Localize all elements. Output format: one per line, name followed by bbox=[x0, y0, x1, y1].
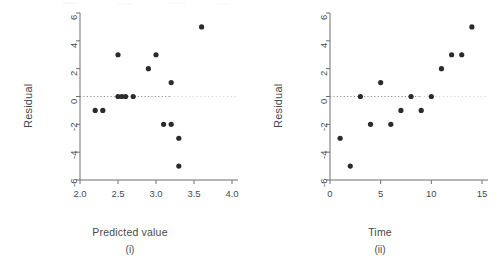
x-tick-label: 2.0 bbox=[60, 188, 100, 199]
data-point bbox=[169, 122, 174, 127]
data-point bbox=[388, 122, 393, 127]
data-point bbox=[338, 136, 343, 141]
data-point bbox=[419, 108, 424, 113]
y-tick-label: 0 bbox=[318, 98, 329, 103]
residual-plots-figure: Residual Predicted value (i) 6420-2-4-62… bbox=[0, 0, 500, 264]
data-point bbox=[429, 94, 434, 99]
panel-predicted-value: Residual Predicted value (i) 6420-2-4-62… bbox=[0, 0, 250, 264]
y-tick-label: 2 bbox=[68, 70, 79, 75]
x-axis-title-i: Predicted value bbox=[60, 226, 200, 238]
panel-time: Residual Time (ii) 6420-2-4-6051015 bbox=[250, 0, 500, 264]
y-tick-label: 4 bbox=[68, 43, 79, 48]
x-tick-label: 2.5 bbox=[98, 188, 138, 199]
data-point bbox=[368, 122, 373, 127]
data-point bbox=[146, 66, 151, 71]
y-tick-label: 2 bbox=[318, 70, 329, 75]
x-tick-label: 3.0 bbox=[136, 188, 176, 199]
data-point bbox=[176, 136, 181, 141]
y-tick-label: -6 bbox=[318, 179, 329, 187]
x-tick-label: 4.0 bbox=[212, 188, 252, 199]
data-point bbox=[449, 52, 454, 57]
y-tick-label: -4 bbox=[318, 151, 329, 159]
x-tick-label: 15 bbox=[462, 188, 500, 199]
data-point bbox=[199, 24, 204, 29]
data-point bbox=[439, 66, 444, 71]
data-point bbox=[169, 80, 174, 85]
data-point bbox=[161, 122, 166, 127]
x-tick-label: 3.5 bbox=[174, 188, 214, 199]
x-axis-title-ii: Time bbox=[310, 226, 450, 238]
data-point bbox=[408, 94, 413, 99]
data-point bbox=[115, 52, 120, 57]
y-tick-label: -2 bbox=[68, 123, 79, 131]
y-tick-label: -6 bbox=[68, 179, 79, 187]
x-tick-label: 5 bbox=[361, 188, 401, 199]
data-point bbox=[93, 108, 98, 113]
x-tick-label: 0 bbox=[310, 188, 350, 199]
x-tick-label: 10 bbox=[411, 188, 451, 199]
y-tick-label: 6 bbox=[68, 15, 79, 20]
y-tick-label: -2 bbox=[318, 123, 329, 131]
data-point bbox=[131, 94, 136, 99]
data-point bbox=[469, 24, 474, 29]
data-point bbox=[176, 163, 181, 168]
plot-area-ii bbox=[250, 0, 500, 264]
data-point bbox=[398, 108, 403, 113]
y-tick-label: -4 bbox=[68, 151, 79, 159]
panel-caption-ii: (ii) bbox=[340, 244, 420, 255]
y-tick-label: 0 bbox=[68, 98, 79, 103]
y-tick-label: 6 bbox=[318, 15, 329, 20]
data-point bbox=[348, 163, 353, 168]
data-point bbox=[459, 52, 464, 57]
plot-area-i bbox=[0, 0, 250, 264]
data-point bbox=[378, 80, 383, 85]
y-tick-label: 4 bbox=[318, 43, 329, 48]
panel-caption-i: (i) bbox=[90, 244, 170, 255]
data-point bbox=[123, 94, 128, 99]
data-point bbox=[358, 94, 363, 99]
data-point bbox=[153, 52, 158, 57]
data-point bbox=[100, 108, 105, 113]
